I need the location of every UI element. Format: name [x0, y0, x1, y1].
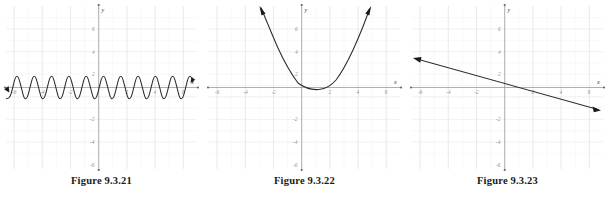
- svg-text:-2: -2: [68, 89, 73, 95]
- svg-text:-2: -2: [90, 116, 95, 122]
- svg-text:6: 6: [588, 89, 591, 95]
- svg-text:-4: -4: [446, 89, 451, 95]
- svg-text:6: 6: [385, 89, 388, 95]
- svg-text:x: x: [393, 78, 397, 85]
- svg-text:-6: -6: [215, 89, 220, 95]
- svg-text:4: 4: [154, 89, 157, 95]
- plot-area-2: -6 -4 -2 2 4 6 6 4 2 -2 -4 -6 y x: [203, 0, 406, 175]
- svg-text:-6: -6: [418, 89, 423, 95]
- figure-sheet: -6 -4 -2 2 4 6 6 4 2 -2 -4 -6 y x: [0, 0, 609, 200]
- figure-caption-2: Figure 9.3.22: [203, 175, 406, 186]
- svg-text:-6: -6: [90, 162, 95, 168]
- svg-text:y: y: [507, 6, 511, 13]
- svg-text:2: 2: [329, 89, 332, 95]
- svg-text:-4: -4: [243, 89, 248, 95]
- svg-text:y: y: [101, 6, 105, 13]
- page-artifact-right: [418, 0, 419, 5]
- plot-svg-3: -6 -4 -2 2 4 6 6 4 2 -2 -4 -6 y x: [406, 0, 609, 175]
- svg-text:2: 2: [295, 71, 298, 77]
- svg-text:2: 2: [498, 71, 501, 77]
- page-artifact-left: [16, 0, 17, 5]
- svg-text:x: x: [596, 78, 600, 85]
- plot-svg-2: -6 -4 -2 2 4 6 6 4 2 -2 -4 -6 y x: [203, 0, 406, 175]
- svg-text:6: 6: [295, 26, 298, 32]
- svg-text:6: 6: [92, 26, 95, 32]
- svg-text:-4: -4: [40, 89, 45, 95]
- figure-caption-3: Figure 9.3.23: [406, 175, 609, 186]
- figure-caption-1: Figure 9.3.21: [0, 175, 203, 186]
- svg-text:-6: -6: [496, 162, 501, 168]
- svg-text:2: 2: [92, 71, 95, 77]
- svg-text:4: 4: [560, 89, 563, 95]
- svg-text:4: 4: [498, 49, 501, 55]
- svg-text:-6: -6: [293, 162, 298, 168]
- svg-text:-4: -4: [496, 139, 501, 145]
- figure-panel-2: -6 -4 -2 2 4 6 6 4 2 -2 -4 -6 y x: [203, 0, 406, 200]
- svg-text:-2: -2: [293, 116, 298, 122]
- parabola-curve-2: [260, 6, 372, 90]
- figure-panel-1: -6 -4 -2 2 4 6 6 4 2 -2 -4 -6 y x: [0, 0, 203, 200]
- svg-text:6: 6: [498, 26, 501, 32]
- svg-text:y: y: [304, 6, 308, 13]
- plot-area-1: -6 -4 -2 2 4 6 6 4 2 -2 -4 -6 y x: [0, 0, 203, 175]
- svg-text:-2: -2: [271, 89, 276, 95]
- svg-text:-2: -2: [474, 89, 479, 95]
- page-artifact-mid: [212, 0, 213, 5]
- line-curve-3: [413, 57, 601, 112]
- plot-svg-1: -6 -4 -2 2 4 6 6 4 2 -2 -4 -6 y x: [0, 0, 203, 175]
- svg-text:-6: -6: [12, 89, 17, 95]
- svg-text:4: 4: [357, 89, 360, 95]
- svg-text:-4: -4: [293, 139, 298, 145]
- svg-text:4: 4: [295, 49, 298, 55]
- plot-area-3: -6 -4 -2 2 4 6 6 4 2 -2 -4 -6 y x: [406, 0, 609, 175]
- svg-text:-4: -4: [90, 139, 95, 145]
- svg-text:4: 4: [92, 49, 95, 55]
- figure-panel-3: -6 -4 -2 2 4 6 6 4 2 -2 -4 -6 y x: [406, 0, 609, 200]
- svg-text:-2: -2: [496, 116, 501, 122]
